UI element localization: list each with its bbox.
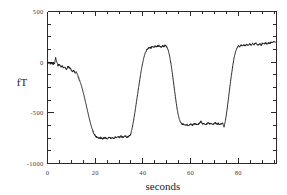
line-chart-plot: 0204060805000-500-1000 fT seconds [0, 0, 287, 195]
y-axis-tick-label: -500 [30, 109, 43, 116]
y-axis-tick-label: -1000 [27, 160, 44, 167]
chart-figure: 0204060805000-500-1000 fT seconds [0, 0, 287, 195]
x-axis-tick-label: 60 [187, 169, 194, 176]
x-axis-tick-label: 40 [139, 169, 146, 176]
x-axis-tick-label: 80 [235, 169, 242, 176]
y-axis-tick-label: 0 [40, 59, 44, 66]
axis-tick-labels-group: 0204060805000-500-1000 [27, 8, 242, 176]
x-axis-tick-label: 20 [92, 169, 99, 176]
x-axis-tick-label: 0 [46, 169, 50, 176]
data-series-line [48, 41, 276, 139]
data-series-group [48, 41, 276, 139]
y-axis-tick-label: 500 [33, 8, 44, 15]
x-axis-title: seconds [146, 180, 181, 192]
y-axis-title: fT [17, 76, 28, 88]
